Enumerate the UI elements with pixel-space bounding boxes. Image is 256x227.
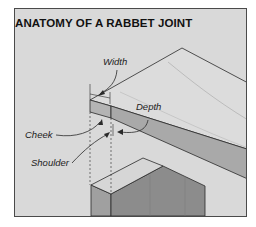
depth-label: Depth xyxy=(136,101,161,112)
rabbet-joint-illustration xyxy=(0,0,256,227)
arrowhead-icon xyxy=(104,132,110,138)
width-label: Width xyxy=(103,56,127,67)
shoulder-label: Shoulder xyxy=(31,157,69,168)
lower-post xyxy=(91,158,205,216)
board xyxy=(90,48,250,180)
cheek-leader xyxy=(56,122,100,136)
diagram-title: ANATOMY OF A RABBET JOINT xyxy=(15,17,192,29)
arrowhead-icon xyxy=(98,119,103,125)
cheek-label: Cheek xyxy=(25,129,52,140)
arrowhead-icon xyxy=(117,129,123,135)
